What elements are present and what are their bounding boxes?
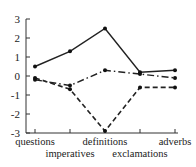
data-point-marker [103, 68, 107, 72]
data-point-marker [33, 65, 37, 69]
y-tick-label: 3 [15, 13, 21, 25]
data-point-marker [68, 49, 72, 53]
data-point-marker [173, 68, 177, 72]
line-chart: 3210-1-2-3questionsimperativesdefinition… [0, 0, 196, 167]
series-line [35, 70, 175, 85]
chart-axes [26, 19, 178, 133]
series-line [35, 78, 175, 131]
x-category-label: exclamations [112, 148, 167, 159]
y-tick-label: 0 [15, 70, 21, 82]
data-point-marker [68, 87, 72, 91]
data-point-marker [173, 76, 177, 80]
data-point-marker [138, 72, 142, 76]
x-category-label: questions [15, 136, 55, 147]
x-category-label: adverbs [159, 136, 192, 147]
series-line [35, 29, 175, 73]
x-category-label: imperatives [46, 148, 95, 159]
data-point-marker [103, 27, 107, 31]
series-dashed [33, 76, 177, 133]
data-point-marker [103, 129, 107, 133]
chart-labels: 3210-1-2-3questionsimperativesdefinition… [11, 13, 192, 159]
data-point-marker [173, 85, 177, 89]
y-tick-label: 1 [15, 51, 21, 63]
x-category-label: definitions [83, 136, 128, 147]
data-point-marker [68, 84, 72, 88]
chart-series [33, 27, 177, 134]
data-point-marker [33, 76, 37, 80]
y-tick-label: -1 [11, 89, 20, 101]
data-point-marker [138, 85, 142, 89]
y-tick-label: 2 [15, 32, 21, 44]
y-tick-label: -2 [11, 108, 20, 120]
series-solid [33, 27, 177, 75]
